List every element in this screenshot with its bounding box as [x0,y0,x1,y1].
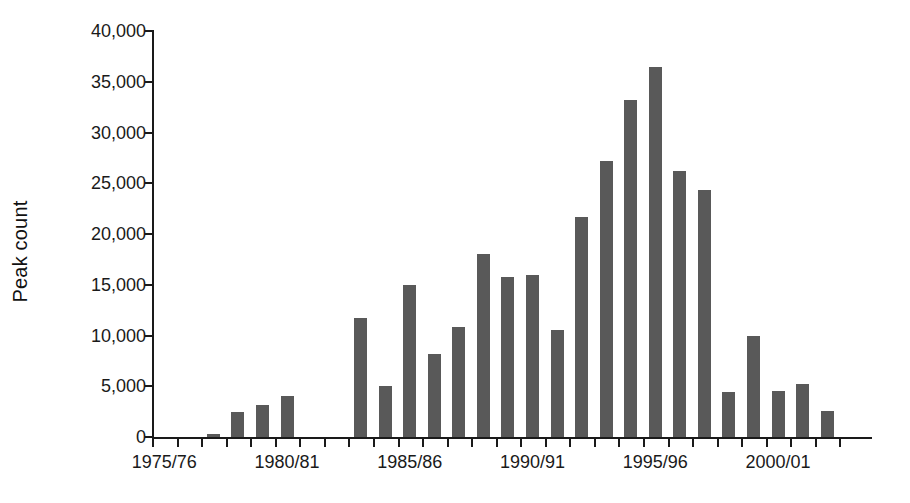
bar [452,327,465,437]
x-tick-mark [594,439,596,447]
y-tick-mark [145,30,153,32]
y-tick-mark [145,335,153,337]
bar [428,354,441,437]
x-tick-label: 1975/76 [104,452,224,472]
x-tick-label: 1995/96 [595,452,715,472]
x-tick-mark [250,439,252,447]
x-tick-mark [790,439,792,447]
y-tick-label: 20,000 [48,225,146,243]
x-tick-mark [766,439,768,447]
y-axis-tick-labels: 05,00010,00015,00020,00025,00030,00035,0… [48,0,146,503]
y-tick-label: 30,000 [48,124,146,142]
y-tick-mark [145,233,153,235]
bar [575,217,588,437]
x-tick-mark [569,439,571,447]
x-tick-mark [152,439,154,447]
x-tick-mark [422,439,424,447]
bar [256,405,269,437]
x-tick-label: 1980/81 [227,452,347,472]
bar [551,330,564,437]
bar [207,434,220,437]
y-axis-title: Peak count [0,0,40,503]
bar [673,171,686,437]
y-tick-mark [145,284,153,286]
y-tick-label: 0 [48,428,146,446]
x-tick-mark [618,439,620,447]
bar [722,392,735,437]
x-tick-mark [447,439,449,447]
y-tick-label: 35,000 [48,73,146,91]
x-tick-label: 1985/86 [350,452,470,472]
x-tick-mark [815,439,817,447]
x-tick-label: 2000/01 [718,452,838,472]
x-tick-mark [520,439,522,447]
x-axis-line [152,437,872,439]
bar [354,318,367,437]
x-tick-label: 1990/91 [473,452,593,472]
y-tick-label: 15,000 [48,276,146,294]
x-tick-mark [177,439,179,447]
x-tick-mark [839,439,841,447]
bar [821,411,834,437]
bar [379,386,392,437]
y-tick-label: 40,000 [48,22,146,40]
x-tick-mark [668,439,670,447]
y-tick-mark [145,81,153,83]
bar [772,391,785,437]
x-tick-mark [201,439,203,447]
x-tick-mark [643,439,645,447]
x-tick-mark [496,439,498,447]
bar [501,277,514,437]
x-tick-mark [471,439,473,447]
bar [477,254,490,437]
x-tick-mark [348,439,350,447]
bar [747,336,760,438]
y-tick-mark [145,132,153,134]
bar [600,161,613,437]
y-tick-mark [145,182,153,184]
y-tick-label: 10,000 [48,327,146,345]
bar [698,190,711,437]
y-tick-label: 5,000 [48,377,146,395]
x-axis-tick-labels: 1975/761980/811985/861990/911995/962000/… [152,452,892,482]
x-tick-mark [226,439,228,447]
x-tick-mark [741,439,743,447]
x-tick-mark [299,439,301,447]
bar [649,67,662,437]
x-tick-mark [373,439,375,447]
x-tick-mark [692,439,694,447]
y-tick-label: 25,000 [48,174,146,192]
bar [403,285,416,437]
x-tick-mark [545,439,547,447]
y-tick-mark [145,385,153,387]
bar [796,384,809,437]
x-tick-mark [275,439,277,447]
bar [281,396,294,437]
plot-area [152,31,870,437]
bar-chart: Peak count 05,00010,00015,00020,00025,00… [0,0,910,503]
x-tick-mark [717,439,719,447]
bar [624,100,637,437]
x-tick-mark [324,439,326,447]
bar [526,275,539,437]
y-tick-mark [145,436,153,438]
x-tick-mark [398,439,400,447]
bar [231,412,244,437]
